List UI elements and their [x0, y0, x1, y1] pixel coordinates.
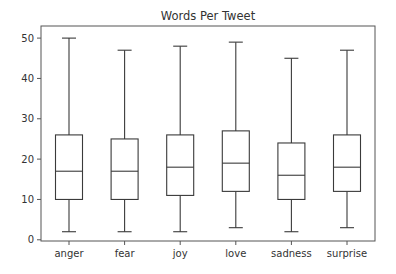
x-tick-label-joy: joy	[172, 248, 188, 259]
x-tick-label-surprise: surprise	[327, 248, 367, 259]
chart-title: Words Per Tweet	[161, 9, 256, 23]
boxplot-chart: Words Per Tweet 01020304050 angerfearjoy…	[0, 0, 396, 274]
box-joy	[167, 46, 194, 232]
box-love	[222, 42, 249, 228]
y-tick-label: 10	[21, 194, 34, 205]
y-tick-label: 40	[21, 73, 34, 84]
box-anger	[56, 38, 83, 232]
box-series	[56, 38, 361, 232]
box-surprise	[334, 50, 361, 227]
iqr-box	[111, 139, 138, 200]
x-tick-label-love: love	[225, 248, 246, 259]
iqr-box	[222, 131, 249, 192]
x-axis: angerfearjoylovesadnesssurprise	[54, 241, 367, 259]
y-tick-label: 30	[21, 113, 34, 124]
y-tick-label: 50	[21, 33, 34, 44]
iqr-box	[56, 135, 83, 200]
y-axis: 01020304050	[21, 33, 41, 246]
box-fear	[111, 50, 138, 232]
plot-area-frame	[41, 26, 375, 241]
iqr-box	[167, 135, 194, 196]
y-tick-label: 0	[28, 234, 34, 245]
x-tick-label-fear: fear	[115, 248, 136, 259]
x-tick-label-anger: anger	[54, 248, 84, 259]
y-tick-label: 20	[21, 154, 34, 165]
iqr-box	[278, 143, 305, 199]
box-sadness	[278, 58, 305, 231]
iqr-box	[334, 135, 361, 191]
x-tick-label-sadness: sadness	[271, 248, 312, 259]
